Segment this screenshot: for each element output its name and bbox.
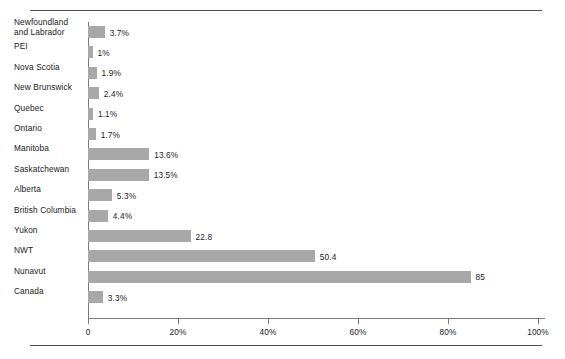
bar-value-label: 1% — [98, 47, 110, 59]
axis-tick-label: 20% — [170, 327, 187, 337]
bar-value-label: 1.9% — [102, 67, 121, 79]
bar-row: NWT50.4 — [0, 246, 565, 266]
axis-tick-mark — [538, 318, 539, 324]
bar-value-label: 3.7% — [110, 27, 129, 39]
bar-row: British Columbia4.4% — [0, 206, 565, 226]
category-label: New Brunswick — [14, 83, 84, 93]
axis-tick-mark — [268, 318, 269, 324]
bar-value-label: 85 — [476, 271, 485, 283]
category-label: Saskatchewan — [14, 165, 84, 175]
bar — [88, 210, 108, 222]
bar — [88, 169, 149, 181]
category-label: PEI — [14, 42, 84, 52]
bar — [88, 87, 99, 99]
axis-tick-mark — [178, 318, 179, 324]
axis-tick-mark — [88, 318, 89, 324]
bar-row: Nova Scotia1.9% — [0, 63, 565, 83]
bar-row: PEI1% — [0, 42, 565, 62]
bar-value-label: 50.4 — [320, 251, 337, 263]
bar-row: Ontario1.7% — [0, 124, 565, 144]
bar-value-label: 3.3% — [108, 292, 127, 304]
axis-tick-label: 100% — [527, 327, 549, 337]
axis-tick-mark — [358, 318, 359, 324]
bar-row: Newfoundlandand Labrador3.7% — [0, 22, 565, 42]
bar-row: Quebec1.1% — [0, 104, 565, 124]
bar-value-label: 4.4% — [113, 210, 132, 222]
bar-value-label: 13.6% — [154, 149, 178, 161]
bar-value-label: 1.1% — [98, 108, 117, 120]
category-label: Nunavut — [14, 267, 84, 277]
bar — [88, 46, 93, 58]
bar-row: New Brunswick2.4% — [0, 83, 565, 103]
bar-value-label: 13.5% — [154, 169, 178, 181]
bar — [88, 230, 191, 242]
bar — [88, 26, 105, 38]
bar-row: Alberta5.3% — [0, 185, 565, 205]
chart-figure: Newfoundlandand Labrador3.7%PEI1%Nova Sc… — [0, 0, 565, 359]
category-label-line2: and Labrador — [14, 27, 65, 37]
bar-value-label: 5.3% — [117, 190, 136, 202]
category-label: Manitoba — [14, 144, 84, 154]
category-label: British Columbia — [14, 206, 84, 216]
bar — [88, 189, 112, 201]
bar — [88, 291, 103, 303]
bar — [88, 271, 471, 283]
bar-chart-plot-area: Newfoundlandand Labrador3.7%PEI1%Nova Sc… — [0, 0, 565, 359]
bar — [88, 148, 149, 160]
axis-tick-label: 40% — [260, 327, 277, 337]
category-label: Ontario — [14, 124, 84, 134]
bar-row: Nunavut85 — [0, 267, 565, 287]
bar-row: Manitoba13.6% — [0, 144, 565, 164]
category-label: Quebec — [14, 104, 84, 114]
bar-value-label: 1.7% — [101, 129, 120, 141]
bar-row: Saskatchewan13.5% — [0, 165, 565, 185]
bar-row: Yukon22.8 — [0, 226, 565, 246]
category-label: Newfoundlandand Labrador — [14, 18, 84, 37]
bar-row: Canada3.3% — [0, 287, 565, 307]
category-label: Nova Scotia — [14, 63, 84, 73]
bar — [88, 250, 315, 262]
bar — [88, 108, 93, 120]
bar-value-label: 2.4% — [104, 88, 123, 100]
bar — [88, 128, 96, 140]
axis-tick-label: 60% — [350, 327, 367, 337]
category-label: Canada — [14, 287, 84, 297]
axis-tick-label: 80% — [440, 327, 457, 337]
category-label: NWT — [14, 246, 84, 256]
category-label: Alberta — [14, 185, 84, 195]
axis-tick-mark — [448, 318, 449, 324]
value-axis-line — [88, 318, 545, 319]
category-label: Yukon — [14, 226, 84, 236]
bar — [88, 67, 97, 79]
axis-tick-label: 0 — [86, 327, 91, 337]
bar-value-label: 22.8 — [196, 231, 213, 243]
